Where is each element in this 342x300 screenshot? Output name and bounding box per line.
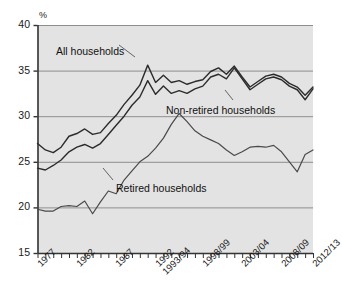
plot-background (38, 25, 314, 253)
y-tick-label-30: 30 (8, 109, 30, 121)
y-tick-label-15: 15 (8, 246, 30, 258)
y-tick-label-40: 40 (8, 18, 30, 30)
series-label-non-retired-households: Non-retired households (166, 104, 275, 116)
y-tick-label-35: 35 (8, 64, 30, 76)
y-tick-label-25: 25 (8, 155, 30, 167)
y-tick-label-20: 20 (8, 200, 30, 212)
y-axis-unit-label: % (39, 10, 47, 20)
series-label-all-households: All households (56, 45, 124, 57)
series-label-retired-households: Retired households (116, 182, 206, 194)
